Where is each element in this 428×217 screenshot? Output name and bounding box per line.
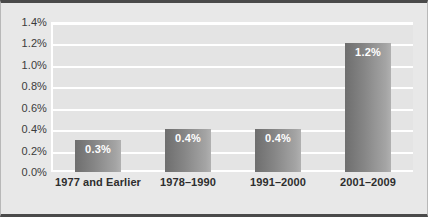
bar-chart-figure: 1.4%1.2%1.0%0.8%0.6%0.4%0.2%0.0% 0.3%0.4… (0, 0, 428, 217)
y-tick-label: 0.6% (22, 102, 47, 114)
x-tick-label: 1991–2000 (250, 176, 306, 188)
bar-slot: 0.3% (53, 22, 143, 172)
bar[interactable]: 0.4% (165, 129, 211, 172)
y-tick-label: 0.0% (22, 166, 47, 178)
bar-value-label: 1.2% (345, 46, 391, 58)
y-tick-label: 1.2% (22, 37, 47, 49)
y-tick-label: 1.4% (22, 16, 47, 28)
bar-value-label: 0.4% (255, 132, 301, 144)
x-tick-label: 1977 and Earlier (55, 176, 141, 188)
y-tick-label: 0.2% (22, 145, 47, 157)
bar-slot: 0.4% (143, 22, 233, 172)
bar-value-label: 0.4% (165, 132, 211, 144)
bar-value-label: 0.3% (75, 143, 121, 155)
y-tick-label: 1.0% (22, 59, 47, 71)
bar[interactable]: 1.2% (345, 43, 391, 172)
y-tick-label: 0.8% (22, 80, 47, 92)
y-axis: 1.4%1.2%1.0%0.8%0.6%0.4%0.2%0.0% (1, 22, 47, 172)
bar[interactable]: 0.3% (75, 140, 121, 172)
x-tick-label: 2001–2009 (340, 176, 396, 188)
bar-slot: 1.2% (323, 22, 413, 172)
bar-slot: 0.4% (233, 22, 323, 172)
y-tick-label: 0.4% (22, 123, 47, 135)
x-axis: 1977 and Earlier1978–19901991–20002001–2… (53, 176, 413, 196)
bar-series: 0.3%0.4%0.4%1.2% (53, 22, 413, 172)
bar[interactable]: 0.4% (255, 129, 301, 172)
x-tick-label: 1978–1990 (160, 176, 216, 188)
